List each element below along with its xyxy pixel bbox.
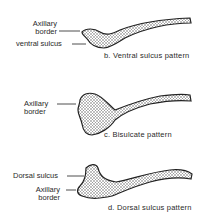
- shape-ventral-sulcus: [82, 18, 191, 48]
- caption-c: c. Bisulcate pattern: [104, 130, 172, 139]
- label-dorsal-sulcus: Dorsal sulcus: [13, 172, 58, 180]
- caption-b: b. Ventral sulcus pattern: [104, 51, 189, 60]
- label-line: border: [27, 28, 57, 36]
- label-axillary-border-d: Axillary border: [28, 186, 60, 202]
- label-axillary-border-b: Axillary border: [27, 20, 57, 36]
- shape-bisulcate: [78, 93, 191, 135]
- label-axillary-border-c: Axillary border: [24, 100, 48, 116]
- label-line: border: [28, 194, 60, 202]
- label-ventral-sulcus: ventral sulcus: [16, 40, 62, 48]
- label-line: border: [24, 108, 48, 116]
- shape-dorsal-sulcus: [78, 165, 192, 199]
- caption-d: d. Dorsal sulcus pattern: [108, 203, 192, 212]
